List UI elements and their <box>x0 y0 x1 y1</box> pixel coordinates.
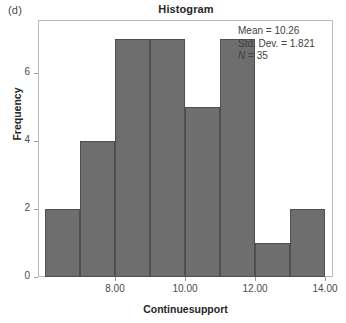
histogram-bar <box>150 39 185 277</box>
x-tick-8: 8.00 <box>115 277 116 278</box>
stat-stddev: Std. Dev. = 1.821 <box>238 38 315 51</box>
histogram-bar <box>255 243 290 277</box>
x-tick-label: 8.00 <box>91 283 139 294</box>
stat-n-value: = 35 <box>245 50 268 61</box>
y-tick-mark <box>34 277 38 278</box>
stat-n: N = 35 <box>238 50 315 63</box>
x-tick-14: 14.00 <box>325 277 326 278</box>
x-tick-mark <box>255 277 256 281</box>
y-tick-label: 0 <box>24 270 30 281</box>
panel-letter: (d) <box>8 4 22 16</box>
histogram-figure: (d) Histogram 0 2 4 6 Frequency 8. <box>0 0 346 323</box>
y-tick-label: 6 <box>24 66 30 77</box>
y-tick-mark <box>34 73 38 74</box>
x-axis-label: Continuesupport <box>38 303 333 315</box>
x-tick-mark <box>115 277 116 281</box>
histogram-bar <box>45 209 80 277</box>
y-axis-label: Frequency <box>11 69 23 159</box>
y-tick-0: 0 <box>0 277 38 278</box>
stat-mean: Mean = 10.26 <box>238 25 315 38</box>
histogram-bar <box>80 141 115 277</box>
y-tick-label: 2 <box>24 202 30 213</box>
x-tick-label: 14.00 <box>301 283 346 294</box>
chart-title: Histogram <box>38 3 334 15</box>
x-tick-12: 12.00 <box>255 277 256 278</box>
y-tick-mark <box>34 209 38 210</box>
x-tick-label: 10.00 <box>161 283 209 294</box>
x-tick-10: 10.00 <box>185 277 186 278</box>
x-tick-mark <box>185 277 186 281</box>
histogram-bar <box>290 209 325 277</box>
x-tick-mark <box>325 277 326 281</box>
histogram-bar <box>220 39 255 277</box>
stats-annotation: Mean = 10.26 Std. Dev. = 1.821 N = 35 <box>238 25 315 63</box>
histogram-bar <box>185 107 220 277</box>
y-tick-2: 2 <box>0 209 38 210</box>
histogram-bar <box>115 39 150 277</box>
y-tick-mark <box>34 141 38 142</box>
x-tick-label: 12.00 <box>231 283 279 294</box>
y-tick-label: 4 <box>24 134 30 145</box>
